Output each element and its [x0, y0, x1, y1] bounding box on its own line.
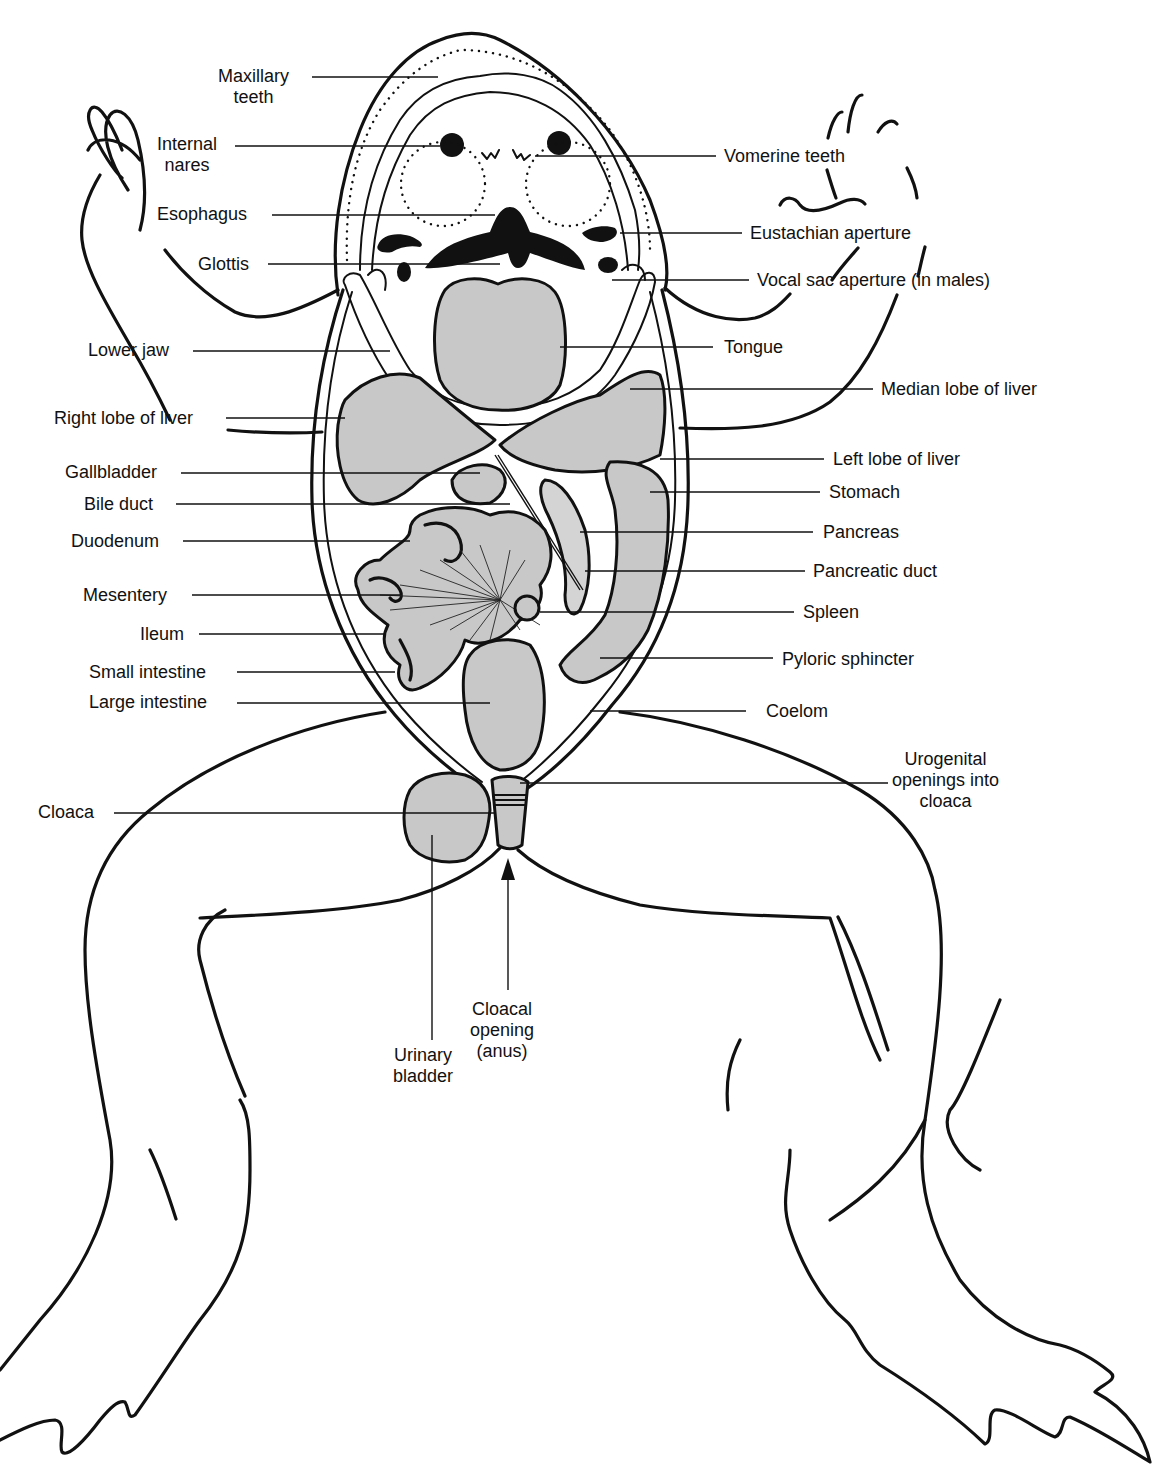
gallbladder [452, 465, 505, 504]
label-pancreatic-duct: Pancreatic duct [813, 561, 937, 582]
label-stomach: Stomach [829, 482, 900, 503]
label-cloacal-opening: Cloacal opening (anus) [470, 999, 534, 1062]
cloaca [492, 776, 528, 848]
label-median-lobe-of-liver: Median lobe of liver [881, 379, 1037, 400]
label-pyloric-sphincter: Pyloric sphincter [782, 649, 914, 670]
esophagus-shape [425, 207, 585, 270]
urinary-bladder [404, 773, 490, 862]
label-mesentery: Mesentery [83, 585, 167, 606]
label-ileum: Ileum [140, 624, 184, 645]
internal-naris-right [547, 131, 571, 155]
label-esophagus: Esophagus [157, 204, 247, 225]
label-vocal-sac-aperture: Vocal sac aperture (in males) [757, 270, 990, 291]
label-pancreas: Pancreas [823, 522, 899, 543]
label-right-lobe-of-liver: Right lobe of liver [54, 408, 193, 429]
label-bile-duct: Bile duct [84, 494, 153, 515]
label-tongue: Tongue [724, 337, 783, 358]
vomerine-teeth [482, 150, 530, 160]
label-glottis: Glottis [198, 254, 249, 275]
label-vomerine-teeth: Vomerine teeth [724, 146, 845, 167]
label-gallbladder: Gallbladder [65, 462, 157, 483]
label-duodenum: Duodenum [71, 531, 159, 552]
tongue [435, 279, 566, 411]
right-hindlimb-outline [620, 712, 1150, 1462]
head [335, 33, 667, 425]
label-urogenital-openings: Urogenital openings into cloaca [892, 749, 999, 812]
spleen [515, 596, 539, 620]
label-internal-nares: Internal nares [157, 134, 217, 176]
large-intestine [463, 640, 544, 770]
label-cloaca: Cloaca [38, 802, 94, 823]
label-left-lobe-of-liver: Left lobe of liver [833, 449, 960, 470]
label-coelom: Coelom [766, 701, 828, 722]
label-small-intestine: Small intestine [89, 662, 206, 683]
label-eustachian-aperture: Eustachian aperture [750, 223, 911, 244]
label-large-intestine: Large intestine [89, 692, 207, 713]
label-maxillary-teeth: Maxillary teeth [218, 66, 289, 108]
label-spleen: Spleen [803, 602, 859, 623]
right-forelimb-outline [828, 95, 897, 138]
label-lower-jaw: Lower jaw [88, 340, 169, 361]
internal-naris-left [440, 133, 464, 157]
label-urinary-bladder: Urinary bladder [393, 1045, 453, 1087]
cloacal-opening-arrow-icon [501, 858, 515, 880]
